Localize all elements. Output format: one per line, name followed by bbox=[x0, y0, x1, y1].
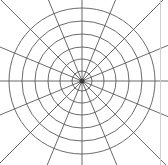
right-edge-divider bbox=[160, 0, 161, 165]
center-hub bbox=[79, 78, 84, 83]
polar-grid-canvas bbox=[0, 0, 168, 165]
spider-web-figure: Spider web / polar grid bbox=[0, 0, 168, 165]
